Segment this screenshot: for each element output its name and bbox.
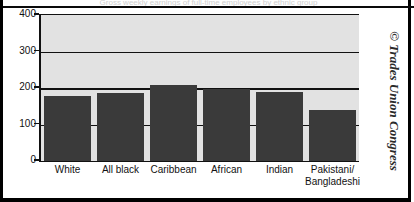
bar-3 — [203, 89, 249, 161]
plot-area — [41, 14, 359, 161]
bar-1 — [97, 93, 143, 161]
bar-0 — [44, 96, 90, 161]
x-tick-label-5: Pakistani/ Bangladeshi — [300, 164, 365, 187]
bar-2 — [150, 85, 196, 161]
bar-5 — [309, 110, 355, 161]
y-tick-mark-100 — [34, 123, 39, 125]
y-tick-mark-200 — [34, 86, 39, 88]
y-tick-label-200: 200 — [4, 82, 36, 92]
y-tick-label-300: 300 — [4, 46, 36, 56]
y-tick-label-400: 400 — [4, 9, 36, 19]
bar-series — [41, 15, 359, 161]
top-border-rule — [3, 6, 414, 8]
y-tick-label-100: 100 — [4, 119, 36, 129]
copyright-notice: © Trades Union Congress — [384, 0, 404, 202]
y-tick-mark-300 — [34, 50, 39, 52]
bar-4 — [256, 92, 302, 161]
copyright-text: © Trades Union Congress — [386, 31, 402, 171]
y-tick-mark-400 — [34, 13, 39, 15]
y-tick-mark-0 — [34, 159, 39, 161]
y-tick-label-0: 0 — [4, 155, 36, 165]
y-axis-labels: 0100200300400 — [3, 0, 36, 202]
